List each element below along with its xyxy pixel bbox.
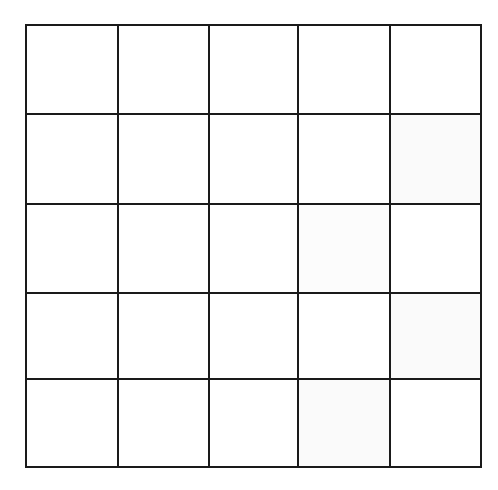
grid-cell [298, 204, 390, 293]
grid-cell [209, 379, 298, 467]
grid-horizontal-line [25, 203, 482, 205]
grid-diagram [0, 0, 498, 490]
grid-cell [390, 25, 481, 114]
grid-horizontal-line [25, 466, 482, 468]
grid-cell [390, 379, 481, 467]
grid-cell [118, 204, 209, 293]
grid-cell [26, 114, 118, 204]
grid-cell [298, 114, 390, 204]
grid-horizontal-line [25, 292, 482, 294]
grid-vertical-line [389, 24, 391, 468]
grid-cell [26, 204, 118, 293]
grid-cell [209, 293, 298, 379]
grid-cell [390, 204, 481, 293]
grid-cell [118, 25, 209, 114]
grid-cell [298, 293, 390, 379]
grid-cell [298, 25, 390, 114]
grid-cell [298, 379, 390, 467]
grid-cell [118, 114, 209, 204]
grid-cell [118, 293, 209, 379]
grid-vertical-line [480, 24, 482, 468]
grid-cell [118, 379, 209, 467]
grid-horizontal-line [25, 24, 482, 26]
grid-cell [26, 379, 118, 467]
grid-cell [26, 293, 118, 379]
grid-cell [209, 114, 298, 204]
grid-cell [390, 114, 481, 204]
grid-horizontal-line [25, 113, 482, 115]
grid-horizontal-line [25, 378, 482, 380]
grid-vertical-line [25, 24, 27, 468]
grid-vertical-line [208, 24, 210, 468]
grid-vertical-line [117, 24, 119, 468]
grid-vertical-line [297, 24, 299, 468]
grid-cell [26, 25, 118, 114]
grid-cell [390, 293, 481, 379]
grid-cell [209, 25, 298, 114]
grid-cell [209, 204, 298, 293]
